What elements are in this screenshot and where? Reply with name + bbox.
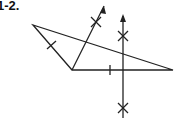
arc-mark-ray — [91, 17, 101, 27]
triangle — [33, 25, 173, 70]
arrowhead-bisector-icon — [120, 14, 126, 22]
geometry-diagram — [0, 0, 178, 118]
construction-ray — [72, 6, 104, 70]
